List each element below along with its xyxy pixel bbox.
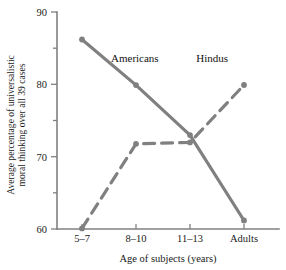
data-point-americans-0 xyxy=(79,37,85,43)
data-point-americans-1 xyxy=(133,82,139,88)
chart-figure: Average percentage of universalistic mor… xyxy=(0,0,286,270)
series-hindus xyxy=(79,82,247,231)
y-tick-label-70: 70 xyxy=(37,152,48,163)
x-tick-label-3: Adults xyxy=(230,233,258,244)
series-label-americans: Americans xyxy=(111,52,159,64)
y-axis-label: Average percentage of universalistic mor… xyxy=(5,55,27,195)
series-americans-line xyxy=(82,40,244,221)
y-tick-label-80: 80 xyxy=(37,79,48,90)
data-point-americans-3 xyxy=(241,218,247,224)
x-axis-title: Age of subjects (years) xyxy=(119,253,217,265)
series-label-hindus: Hindus xyxy=(196,52,228,64)
y-axis-tick-labels: 90 80 70 60 xyxy=(37,7,48,235)
y-tick-label-60: 60 xyxy=(37,224,48,235)
line-chart: Average percentage of universalistic mor… xyxy=(0,0,286,270)
data-point-hindus-0 xyxy=(79,226,85,232)
data-point-americans-2 xyxy=(187,132,193,138)
data-point-hindus-3 xyxy=(241,82,247,88)
x-tick-label-2: 11–13 xyxy=(177,233,203,244)
y-tick-label-90: 90 xyxy=(37,7,48,18)
y-axis-label-line1: Average percentage of universalistic xyxy=(5,55,16,195)
x-axis-tick-labels: 5–7 8–10 11–13 Adults xyxy=(74,233,258,244)
data-point-hindus-1 xyxy=(133,141,139,147)
x-tick-label-0: 5–7 xyxy=(74,233,90,244)
series-hindus-line xyxy=(82,85,244,228)
y-axis-label-line2: moral thinking over all 39 cases xyxy=(16,63,27,186)
x-tick-label-1: 8–10 xyxy=(126,233,147,244)
